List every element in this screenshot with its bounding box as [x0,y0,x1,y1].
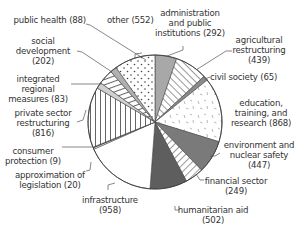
label-text: (816) [10,128,76,138]
label-text: institutions (292) [152,28,228,38]
label-text: restructuring [10,118,76,128]
label-text: (502) [176,215,250,225]
label-consumer-protection: consumer protection (9) [4,146,62,166]
label-text: approximation of [14,170,86,180]
label-text: environment and [222,140,296,150]
label-text: civil society (65) [210,72,277,82]
label-text: development [12,46,74,56]
label-infrastructure: infrastructure (958) [80,195,140,215]
label-private-sector: private sector restructuring (816) [10,108,76,138]
label-text: measures (83) [6,94,70,104]
label-text: consumer [4,146,62,156]
label-text: public health (88) [13,15,86,25]
label-civil-society: civil society (65) [210,72,277,82]
label-humanitarian-aid: humanitarian aid (502) [176,205,250,225]
pie-slices [88,55,222,189]
label-text: other (552) [107,15,154,25]
label-text: social [12,36,74,46]
label-text: education, [226,98,296,108]
label-text: protection (9) [4,156,62,166]
label-education: education, training, and research (868) [226,98,296,128]
label-other: other (552) [107,15,154,25]
label-text: (202) [12,56,74,66]
label-text: administration [152,8,228,18]
label-approximation-legislation: approximation of legislation (20) [14,170,86,190]
label-text: legislation (20) [14,180,86,190]
label-text: humanitarian aid [176,205,250,215]
label-text: (958) [80,205,140,215]
label-text: regional [6,84,70,94]
label-social-development: social development (202) [12,36,74,66]
label-text: research (868) [226,118,296,128]
label-text: private sector [10,108,76,118]
label-text: training, and [226,108,296,118]
label-text: infrastructure [80,195,140,205]
label-text: restructuring [226,45,292,55]
label-financial-sector: financial sector (249) [200,176,272,196]
label-text: agricultural [226,35,292,45]
label-environment: environment and nuclear safety (447) [222,140,296,170]
label-agricultural: agricultural restructuring (439) [226,35,292,65]
label-text: nuclear safety [222,150,296,160]
label-public-health: public health (88) [4,15,86,25]
label-administration: administration and public institutions (… [152,8,228,38]
label-text: (439) [226,55,292,65]
label-text: integrated [6,74,70,84]
label-text: (447) [222,160,296,170]
label-integrated-regional: integrated regional measures (83) [6,74,70,104]
label-text: financial sector [200,176,272,186]
label-text: (249) [200,186,272,196]
label-text: and public [152,18,228,28]
